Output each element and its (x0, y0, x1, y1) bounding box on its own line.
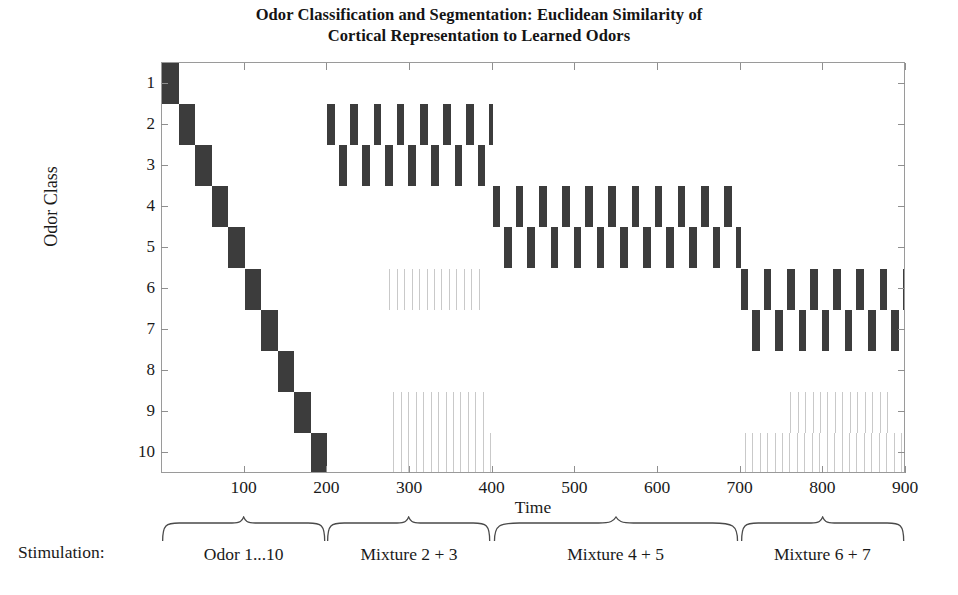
activity-bar (845, 310, 853, 351)
weak-activity-mark (389, 269, 390, 310)
y-tick-mark (161, 83, 168, 84)
activity-bar (736, 227, 741, 268)
weak-activity-mark (401, 392, 402, 433)
weak-activity-mark (471, 269, 472, 310)
page-title: Odor Classification and Segmentation: Eu… (0, 4, 958, 46)
stimulation-segment: Mixture 6 + 7 (740, 516, 905, 580)
activity-bar (562, 186, 570, 227)
x-tick-mark (326, 466, 327, 473)
activity-bar (787, 269, 795, 310)
activity-bar (678, 186, 686, 227)
x-tick-label: 500 (539, 476, 609, 498)
x-tick-mark-top (244, 63, 245, 70)
weak-activity-mark (464, 269, 465, 310)
activity-bar (689, 227, 697, 268)
weak-activity-mark (427, 269, 428, 310)
x-tick-label: 900 (870, 476, 940, 498)
activity-bar (261, 310, 278, 351)
stimulation-annotation: Stimulation: Odor 1...10Mixture 2 + 3Mix… (0, 516, 958, 586)
x-tick-mark (492, 466, 493, 473)
weak-activity-mark (434, 269, 435, 310)
y-axis-title: Odor Class (41, 112, 62, 302)
weak-activity-mark (483, 392, 484, 433)
weak-activity-mark (850, 392, 851, 433)
activity-bar (294, 392, 311, 433)
activity-bar (278, 351, 295, 392)
weak-activity-mark (449, 269, 450, 310)
stimulation-segment: Odor 1...10 (161, 516, 326, 580)
weak-activity-mark (393, 392, 394, 433)
y-tick-label: 6 (109, 279, 155, 296)
activity-bar (775, 310, 783, 351)
y-tick-mark (161, 288, 168, 289)
y-tick-mark (161, 370, 168, 371)
y-tick-mark (161, 247, 168, 248)
activity-bar (408, 145, 416, 186)
activity-bar (489, 104, 492, 145)
x-tick-mark-top (905, 63, 906, 70)
weak-activity-mark (453, 392, 454, 433)
y-tick-label: 8 (109, 361, 155, 378)
x-tick-mark-top (657, 63, 658, 70)
weak-activity-mark (887, 392, 888, 433)
x-tick-mark-top (326, 63, 327, 70)
weak-activity-mark (835, 392, 836, 433)
x-tick-label: 400 (457, 476, 527, 498)
activity-bar (833, 269, 841, 310)
stimulation-segment-caption: Mixture 4 + 5 (492, 542, 740, 566)
activity-bar (856, 269, 864, 310)
activity-bar (868, 310, 876, 351)
y-tick-mark-right (898, 247, 905, 248)
y-tick-label: 10 (109, 443, 155, 460)
activity-bar (880, 269, 888, 310)
activity-bar (397, 104, 405, 145)
y-tick-label: 4 (109, 197, 155, 214)
x-tick-label: 600 (622, 476, 692, 498)
stimulation-segment: Mixture 4 + 5 (492, 516, 740, 580)
page-title-line-1: Odor Classification and Segmentation: Eu… (0, 4, 958, 25)
stimulation-label: Stimulation: (18, 542, 105, 563)
y-tick-mark-right (898, 452, 905, 453)
x-tick-label: 800 (787, 476, 857, 498)
x-tick-label: 200 (291, 476, 361, 498)
x-axis-ticks (161, 466, 905, 474)
stimulation-segment-caption: Mixture 2 + 3 (326, 542, 491, 566)
activity-bar (385, 145, 393, 186)
weak-activity-mark (857, 392, 858, 433)
weak-activity-mark (468, 392, 469, 433)
x-tick-mark-top (740, 63, 741, 70)
x-tick-mark (822, 466, 823, 473)
activity-bar (764, 269, 772, 310)
activity-bar (620, 227, 628, 268)
activity-bar (585, 186, 593, 227)
y-tick-label: 7 (109, 320, 155, 337)
activity-bar (420, 104, 428, 145)
weak-activity-mark (441, 269, 442, 310)
x-axis-title: Time (161, 497, 905, 518)
weak-activity-mark (880, 392, 881, 433)
activity-bar (643, 227, 651, 268)
activity-bar (431, 145, 439, 186)
y-tick-label: 1 (109, 74, 155, 91)
weak-activity-mark (479, 269, 480, 310)
weak-activity-mark (827, 392, 828, 433)
weak-activity-mark (842, 392, 843, 433)
raster-canvas (162, 63, 904, 472)
activity-bar (822, 310, 830, 351)
stimulation-segment-caption: Mixture 6 + 7 (740, 542, 905, 566)
activity-bar (539, 186, 547, 227)
weak-activity-mark (805, 392, 806, 433)
weak-activity-mark (790, 392, 791, 433)
weak-activity-mark (820, 392, 821, 433)
x-tick-mark (409, 466, 410, 473)
page-title-line-2: Cortical Representation to Learned Odors (0, 25, 958, 46)
weak-activity-mark (419, 269, 420, 310)
activity-bar (752, 310, 760, 351)
activity-bar (574, 227, 582, 268)
weak-activity-mark (431, 392, 432, 433)
y-tick-mark-right (898, 124, 905, 125)
y-tick-mark-right (898, 288, 905, 289)
x-tick-mark-top (574, 63, 575, 70)
x-tick-mark (244, 466, 245, 473)
activity-bar (597, 227, 605, 268)
